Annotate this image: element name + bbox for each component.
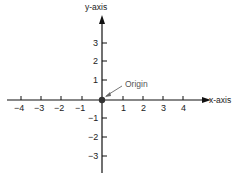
y-axis-arrow-icon [99,15,105,24]
y-tick-label: 3 [93,39,98,48]
y-tick-label: 2 [93,57,98,66]
y-tick-label: −1 [88,114,98,123]
x-tick-label: −3 [34,104,44,113]
y-axis-label: y-axis [85,3,107,12]
x-tick-label: −4 [14,104,24,113]
origin-label: Origin [125,80,148,89]
y-tick-label: −2 [88,133,98,142]
axes-diagram [0,0,239,180]
origin-pointer-arrow-icon [105,92,111,97]
x-tick-label: 4 [181,104,186,113]
x-tick-label: 2 [141,104,146,113]
x-tick-label: 1 [121,104,126,113]
x-tick-label: −2 [54,104,64,113]
x-tick-label: −1 [75,104,85,113]
x-tick-label: 3 [161,104,166,113]
y-tick-label: 1 [93,76,98,85]
y-tick-label: −3 [88,152,98,161]
origin-dot [99,97,105,103]
x-axis-label: x-axis [209,96,231,105]
